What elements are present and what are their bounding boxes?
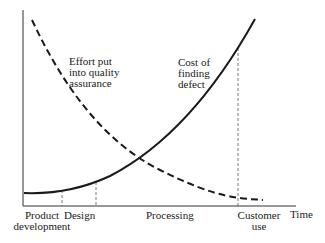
- cost-label: Cost of finding defect: [178, 57, 210, 90]
- effort-label-line: assurance: [69, 78, 119, 89]
- phase-processing: Processing: [146, 210, 194, 221]
- phase-customer-use: Customer use: [236, 210, 282, 232]
- effort-curve: [32, 20, 263, 200]
- phase-label-line: development: [12, 221, 72, 232]
- cost-curve: [24, 19, 255, 193]
- x-axis-label: Time: [290, 209, 313, 220]
- chart-canvas: [0, 0, 325, 243]
- effort-label: Effort put into quality assurance: [69, 56, 119, 89]
- phase-design: Design: [64, 210, 95, 221]
- phase-product-development: Product development: [12, 210, 72, 232]
- phase-label-line: use: [236, 221, 282, 232]
- cost-label-line: defect: [178, 79, 210, 90]
